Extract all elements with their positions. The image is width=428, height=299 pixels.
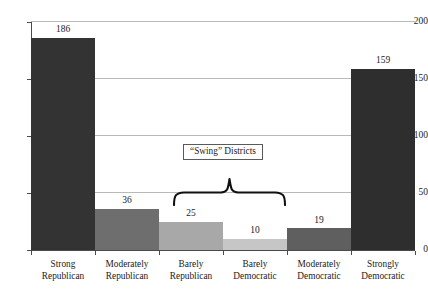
x-label-line1: Barely [223, 259, 287, 271]
swing-districts-annotation: “Swing” Districts [183, 144, 263, 160]
x-axis-label-strongly-democratic: StronglyDemocratic [351, 259, 415, 282]
x-label-line1: Moderately [95, 259, 159, 271]
x-axis-label-moderately-republican: ModeratelyRepublican [95, 259, 159, 282]
x-label-line2: Republican [159, 271, 223, 283]
x-tick-mark-1 [95, 251, 96, 255]
bar-barely-democratic [223, 239, 287, 250]
x-tick-mark-end [415, 251, 416, 255]
x-label-line2: Democratic [351, 271, 415, 283]
x-label-line2: Democratic [287, 271, 351, 283]
bar-chart: 050100150200 18636251019159 StrongRepubl… [0, 0, 428, 299]
bar-barely-republican [159, 222, 223, 251]
plot-area: 18636251019159 [31, 22, 415, 250]
x-label-line1: Barely [159, 259, 223, 271]
x-tick-mark-0 [31, 251, 32, 255]
x-tick-mark-4 [287, 251, 288, 255]
x-axis-label-barely-democratic: BarelyDemocratic [223, 259, 287, 282]
x-axis-label-barely-republican: BarelyRepublican [159, 259, 223, 282]
x-tick-mark-3 [223, 251, 224, 255]
x-tick-mark-2 [159, 251, 160, 255]
x-label-line1: Strong [31, 259, 95, 271]
bar-value-label-4: 19 [287, 216, 351, 226]
x-label-line1: Strongly [351, 259, 415, 271]
x-label-line2: Republican [31, 271, 95, 283]
bar-strong-republican [31, 38, 95, 250]
gridline-200 [31, 21, 415, 22]
x-label-line2: Republican [95, 271, 159, 283]
bar-moderately-democratic [287, 228, 351, 250]
bar-value-label-0: 186 [31, 25, 95, 35]
x-tick-mark-5 [351, 251, 352, 255]
x-axis-label-moderately-democratic: ModeratelyDemocratic [287, 259, 351, 282]
bar-value-label-5: 159 [351, 56, 415, 66]
bar-value-label-1: 36 [95, 196, 159, 206]
x-label-line2: Democratic [223, 271, 287, 283]
bar-moderately-republican [95, 209, 159, 250]
x-label-line1: Moderately [287, 259, 351, 271]
bar-value-label-2: 25 [159, 209, 223, 219]
x-axis-label-strong-republican: StrongRepublican [31, 259, 95, 282]
bar-value-label-3: 10 [223, 226, 287, 236]
bar-strongly-democratic [351, 69, 415, 250]
